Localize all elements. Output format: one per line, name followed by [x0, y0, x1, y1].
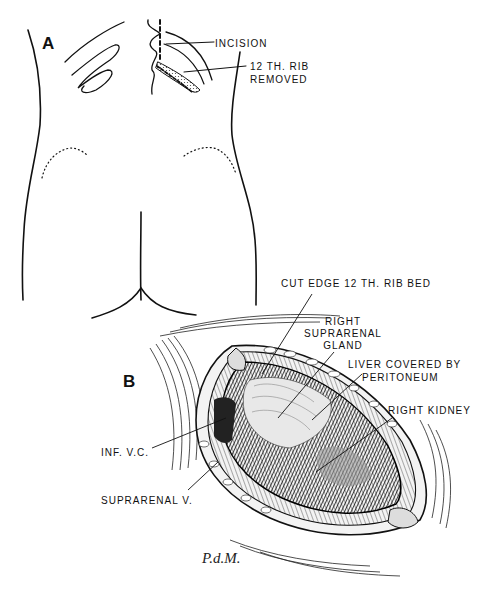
label-right-suprarenal-gland-3: GLAND: [298, 339, 388, 352]
label-12th-rib-line1: 12 TH. RIB: [250, 60, 309, 73]
label-inf-vc: INF. V.C.: [101, 446, 149, 459]
panel-b-letter: B: [123, 372, 135, 392]
artist-signature: P.d.M.: [202, 550, 240, 567]
label-liver-1: LIVER COVERED BY: [348, 358, 461, 371]
label-12th-rib-line2: REMOVED: [250, 73, 308, 86]
label-cut-edge-rib-bed: CUT EDGE 12 TH. RIB BED: [281, 277, 431, 290]
panel-a-drawing: [22, 20, 256, 318]
figure-drawing: [0, 0, 490, 590]
label-right-kidney: RIGHT KIDNEY: [388, 404, 471, 417]
anatomical-figure: A B INCISION 12 TH. RIB REMOVED CUT EDGE…: [0, 0, 490, 590]
label-suprarenal-v: SUPRARENAL V.: [101, 494, 193, 507]
label-liver-2: PERITONEUM: [362, 371, 439, 384]
panel-a-letter: A: [42, 34, 54, 54]
label-incision: INCISION: [215, 37, 267, 50]
